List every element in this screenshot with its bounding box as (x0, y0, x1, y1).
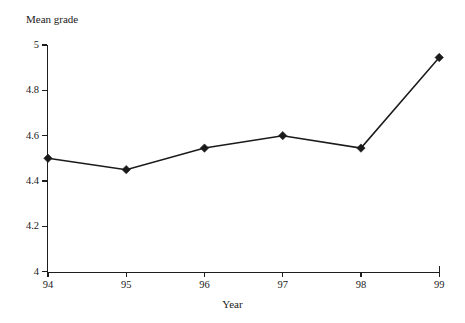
line-chart: Mean grade 44.24.44.64.85 949596979899 Y… (0, 0, 465, 323)
series-line (48, 57, 439, 169)
series-layer (0, 0, 465, 323)
data-point-marker (44, 154, 52, 162)
x-axis-title: Year (0, 297, 465, 311)
data-point-marker (122, 165, 130, 173)
series-markers (44, 53, 444, 174)
data-point-marker (279, 131, 287, 139)
data-point-marker (200, 144, 208, 152)
